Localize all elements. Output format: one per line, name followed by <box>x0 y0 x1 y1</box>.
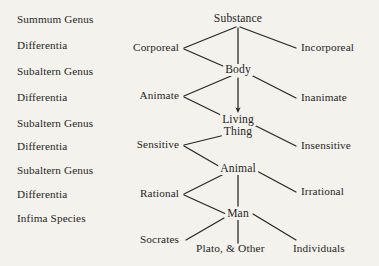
differentia-inanimate: Inanimate <box>299 92 347 104</box>
differentia-irrational: Irrational <box>299 186 344 198</box>
branch-rational-man <box>184 195 226 214</box>
branch-substance-corporeal <box>184 27 236 48</box>
branch-living-thing-insensitive <box>252 124 296 146</box>
branch-sensitive-animal <box>184 146 222 168</box>
branch-animal-irrational <box>255 170 296 192</box>
term-differentia-4: Differentia <box>17 189 67 201</box>
branch-animal-rational <box>184 175 222 194</box>
term-differentia-2: Differentia <box>17 92 67 104</box>
branch-man-individuals <box>253 214 296 240</box>
node-body: Body <box>223 64 253 76</box>
node-man: Man <box>225 208 251 220</box>
differentia-insensitive: Insensitive <box>299 140 351 152</box>
differentia-corporeal: Corporeal <box>133 42 181 54</box>
differentia-rational: Rational <box>140 188 181 200</box>
differentia-animate: Animate <box>140 90 181 102</box>
individual-socrates: Socrates <box>140 234 181 246</box>
individuals-plato-and-other: Plato, & Other <box>196 243 265 255</box>
branch-man-socrates <box>186 218 224 240</box>
porphyrian-tree-diagram: Summum Genus Differentia Subaltern Genus… <box>0 0 379 266</box>
node-substance: Substance <box>212 13 264 25</box>
branch-substance-incorporeal <box>240 27 296 48</box>
term-differentia-1: Differentia <box>17 40 67 52</box>
term-summum-genus: Summum Genus <box>17 14 94 26</box>
branch-body-inanimate <box>247 73 296 98</box>
term-infima-species: Infima Species <box>17 213 86 225</box>
differentia-incorporeal: Incorporeal <box>299 42 354 54</box>
differentia-sensitive: Sensitive <box>137 139 181 151</box>
node-animal: Animal <box>218 163 258 175</box>
term-subaltern-genus-1: Subaltern Genus <box>17 66 93 78</box>
term-differentia-3: Differentia <box>17 141 67 153</box>
term-subaltern-genus-2: Subaltern Genus <box>17 118 93 130</box>
term-subaltern-genus-3: Subaltern Genus <box>17 165 93 177</box>
node-living-thing-line2: Thing <box>222 126 254 138</box>
branch-body-animate <box>184 76 231 96</box>
individuals-label: Individuals <box>291 243 345 255</box>
